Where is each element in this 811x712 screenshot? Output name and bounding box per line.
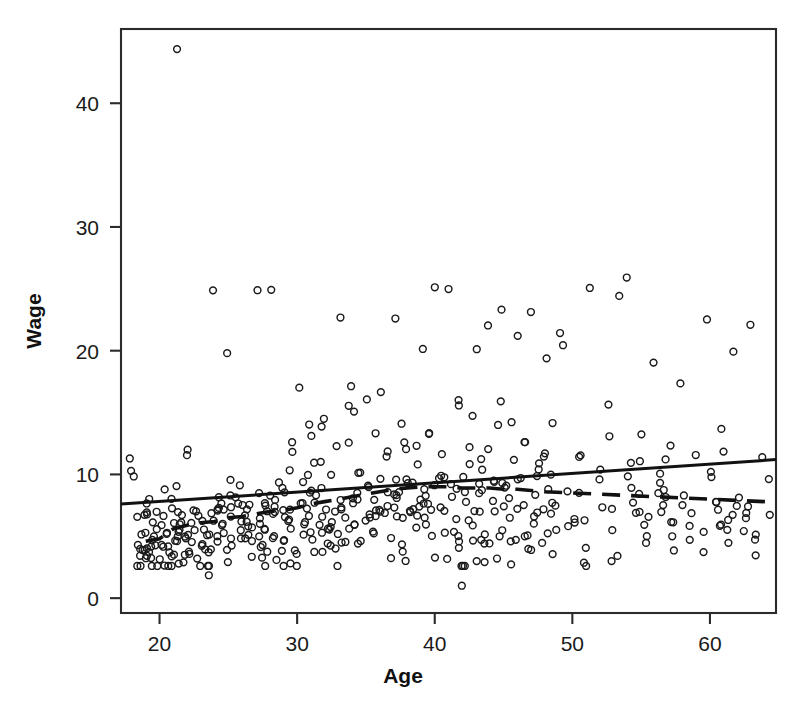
y-axis-title: Wage xyxy=(22,293,45,348)
data-point xyxy=(414,512,421,519)
data-point xyxy=(514,332,521,339)
data-point xyxy=(473,558,480,565)
data-point xyxy=(220,530,227,537)
data-point xyxy=(596,476,603,483)
data-point xyxy=(614,552,621,559)
data-point xyxy=(429,533,436,540)
data-point xyxy=(237,527,244,534)
data-point xyxy=(641,521,648,528)
data-point xyxy=(432,554,439,561)
data-point xyxy=(371,496,378,503)
data-point xyxy=(718,426,725,433)
data-point xyxy=(345,439,352,446)
data-point xyxy=(235,500,242,507)
data-point xyxy=(323,506,330,513)
data-point xyxy=(724,526,731,533)
data-point xyxy=(660,502,667,509)
data-point xyxy=(445,286,452,293)
data-point xyxy=(384,503,391,510)
data-point xyxy=(287,525,294,532)
data-point xyxy=(334,563,341,570)
data-point xyxy=(704,316,711,323)
data-point xyxy=(158,522,165,529)
data-point xyxy=(421,514,428,521)
data-point xyxy=(392,315,399,322)
data-point xyxy=(272,497,279,504)
data-point xyxy=(444,556,451,563)
data-point xyxy=(224,350,231,357)
data-point xyxy=(692,452,699,459)
data-point xyxy=(256,533,263,540)
data-point xyxy=(399,541,406,548)
data-point xyxy=(500,503,507,510)
data-point xyxy=(345,402,352,409)
data-point xyxy=(156,556,163,563)
data-point xyxy=(393,476,400,483)
data-point xyxy=(280,563,287,570)
data-point xyxy=(662,456,669,463)
data-point xyxy=(398,420,405,427)
data-point xyxy=(278,547,285,554)
data-point xyxy=(498,306,505,313)
data-point xyxy=(481,559,488,566)
data-point xyxy=(466,444,473,451)
data-point xyxy=(305,472,312,479)
data-point xyxy=(188,520,195,527)
data-point xyxy=(506,495,513,502)
data-point xyxy=(333,443,340,450)
data-point xyxy=(557,330,564,337)
data-point xyxy=(321,415,328,422)
data-point xyxy=(624,473,631,480)
data-point xyxy=(306,421,313,428)
data-point xyxy=(576,454,583,461)
data-point xyxy=(630,499,637,506)
data-point xyxy=(740,528,747,535)
data-point xyxy=(458,582,465,589)
data-point xyxy=(273,557,280,564)
x-axis-tick-labels: 2030405060 xyxy=(148,632,722,655)
data-point xyxy=(478,456,485,463)
data-point xyxy=(377,389,384,396)
data-point xyxy=(495,422,502,429)
data-point xyxy=(286,467,293,474)
data-point xyxy=(126,455,133,462)
data-point xyxy=(470,537,477,544)
data-point xyxy=(657,470,664,477)
data-point xyxy=(730,348,737,355)
data-point xyxy=(149,519,156,526)
data-point xyxy=(249,538,256,545)
data-point xyxy=(599,504,606,511)
data-point xyxy=(421,486,428,493)
data-point xyxy=(388,555,395,562)
data-point xyxy=(670,547,677,554)
data-point xyxy=(657,479,664,486)
data-point xyxy=(236,482,243,489)
data-point xyxy=(605,401,612,408)
data-point xyxy=(227,477,234,484)
data-point xyxy=(511,456,518,463)
data-point xyxy=(414,461,421,468)
data-point xyxy=(643,533,650,540)
data-point xyxy=(268,286,275,293)
data-point xyxy=(161,486,168,493)
data-point xyxy=(469,522,476,529)
data-point xyxy=(508,561,515,568)
data-point xyxy=(431,284,438,291)
data-point xyxy=(317,458,324,465)
y-tick-label: 40 xyxy=(76,92,99,115)
data-point xyxy=(372,430,379,437)
plot-canvas: 2030405060 010203040 Age Wage xyxy=(0,0,811,712)
data-point xyxy=(720,448,727,455)
data-point xyxy=(494,555,501,562)
data-point xyxy=(627,459,634,466)
data-point xyxy=(586,285,593,292)
data-point xyxy=(453,516,460,523)
data-point xyxy=(508,419,515,426)
data-point xyxy=(765,476,772,483)
data-point xyxy=(313,492,320,499)
x-tick-label: 40 xyxy=(423,632,446,655)
data-point xyxy=(205,572,212,579)
data-point xyxy=(520,502,527,509)
data-point xyxy=(564,488,571,495)
data-point xyxy=(752,552,759,559)
